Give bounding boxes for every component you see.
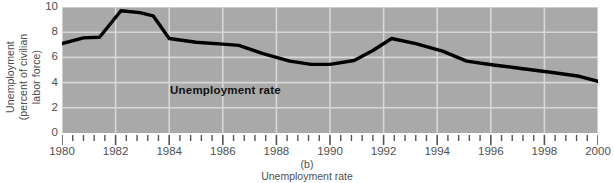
x-axis-tick-label: 1990 xyxy=(317,145,343,157)
x-axis-tick-label: 1980 xyxy=(49,145,75,157)
x-axis-tick-label: 1984 xyxy=(156,145,182,157)
x-axis-tick-label: 1986 xyxy=(210,145,236,157)
vertical-gridlines xyxy=(62,7,598,133)
x-axis-tick-label: 1988 xyxy=(264,145,290,157)
x-axis-tick-label: 2000 xyxy=(585,145,611,157)
y-axis-tick-label: 10 xyxy=(34,1,58,12)
x-axis-tick-label: 1994 xyxy=(424,145,450,157)
y-axis-tick-label: 8 xyxy=(34,26,58,37)
x-axis-title-caption: Unemployment rate xyxy=(0,170,614,182)
x-axis-tick-label: 1982 xyxy=(103,145,129,157)
y-axis-tick-label: 6 xyxy=(34,51,58,62)
y-axis-title-line-2: (percent of civilian xyxy=(17,34,29,121)
panel-letter-caption: (b) xyxy=(0,158,614,170)
x-axis-ticks xyxy=(62,133,598,145)
plot-svg xyxy=(62,7,598,133)
y-axis-title-line-1: Unemployment xyxy=(4,41,16,113)
plot-area: Unemployment rate xyxy=(62,7,598,133)
y-axis-tick-label: 0 xyxy=(34,127,58,138)
x-axis-tick-label: 1998 xyxy=(532,145,558,157)
y-axis-tick-label: 2 xyxy=(34,102,58,113)
y-axis-tick-label: 4 xyxy=(34,77,58,88)
x-axis-tick-label: 1992 xyxy=(371,145,397,157)
unemployment-rate-chart-figure: Unemployment (percent of civilian labor … xyxy=(0,0,614,183)
x-axis-tick-label: 1996 xyxy=(478,145,504,157)
series-inline-label: Unemployment rate xyxy=(170,84,281,96)
